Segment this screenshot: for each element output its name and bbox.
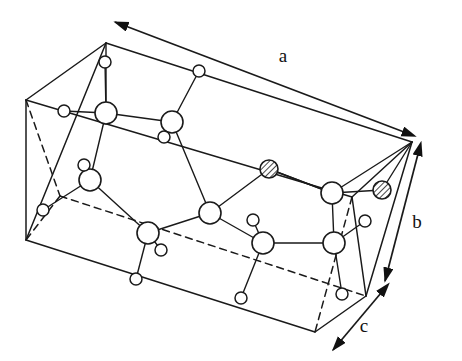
cell-edge [106,43,412,142]
atom-small-open [158,131,170,143]
atom-small-open [359,215,371,227]
axis-label-b: b [412,211,422,232]
atom-small-open [155,244,167,256]
cell-edge [26,240,315,332]
atom-large-open [199,202,221,224]
atom-hatched [373,181,391,199]
atom-small-open [130,273,142,285]
atom-hatched [260,160,278,178]
atom-small-open [235,292,247,304]
atom-small-open [37,204,49,216]
lattice-vector-arrows [115,22,418,350]
atom-small-open [336,288,348,300]
axis-label-c: c [360,315,368,336]
cell-edge [352,197,366,296]
cell-edge [366,142,412,296]
atom-small-open [58,105,70,117]
figure-canvas: a b c [0,0,462,361]
atom-large-open [137,222,159,244]
atom-large-open [321,182,343,204]
atom-large-open [252,232,274,254]
atom-small-open [247,214,259,226]
lattice-arrow-a [115,22,404,132]
atom-large-open [161,111,183,133]
atom-large-open [323,232,345,254]
bond [172,122,210,213]
atom-small-open [78,159,90,171]
cell-edge-hidden [26,100,60,196]
axis-label-a: a [279,45,288,66]
bond [332,142,412,193]
cell-hidden-edges [26,100,366,332]
atom-large-open [79,169,101,191]
atom-small-open [193,65,205,77]
unit-cell-diagram: a b c [0,0,462,361]
atom-small-open [99,56,111,68]
atom-large-open [95,102,117,124]
atomic-bonds [43,43,412,298]
